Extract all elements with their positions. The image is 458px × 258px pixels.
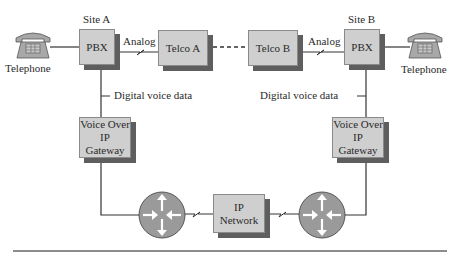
telco-b-label: Telco B — [248, 30, 298, 66]
ip-network: IP Network — [213, 194, 270, 238]
ip-network-line1: IP — [234, 201, 244, 214]
telephone-b-label: Telephone — [401, 63, 447, 75]
telephone-b-icon — [408, 33, 442, 58]
pbx-b: PBX — [344, 29, 385, 70]
line-gateway-b-router-b — [344, 163, 366, 215]
pbx-a: PBX — [79, 29, 120, 70]
analog-link-a — [120, 50, 158, 55]
link-ip-router-b — [270, 212, 299, 217]
telephone-a-label: Telephone — [5, 62, 51, 74]
analog-b-label: Analog — [308, 35, 340, 47]
site-b-label: Site B — [348, 13, 375, 25]
gateway-a-line1: Voice Over — [80, 118, 130, 131]
site-a-label: Site A — [83, 13, 110, 25]
analog-a-label: Analog — [123, 35, 155, 47]
digital-voice-a-label: Digital voice data — [114, 89, 192, 101]
telephone-a-icon — [16, 33, 50, 58]
telco-b: Telco B — [248, 30, 303, 71]
link-router-a-ip — [185, 212, 213, 217]
gateway-a-line2: IP Gateway — [80, 131, 130, 157]
router-a-icon — [139, 192, 185, 238]
ip-network-line2: Network — [220, 214, 259, 227]
router-b-icon — [299, 192, 345, 238]
pbx-a-label: PBX — [79, 29, 115, 65]
telco-a-label: Telco A — [158, 30, 208, 66]
telco-a: Telco A — [158, 30, 213, 71]
line-gateway-a-router-a — [101, 163, 140, 215]
analog-link-b — [303, 50, 345, 55]
voip-gateway-b: Voice Over IP Gateway — [332, 117, 389, 163]
digital-voice-b-label: Digital voice data — [260, 89, 338, 101]
gateway-b-line2: IP Gateway — [333, 131, 383, 157]
voip-gateway-a: Voice Over IP Gateway — [79, 117, 136, 163]
gateway-b-line1: Voice Over — [333, 118, 383, 131]
pbx-b-label: PBX — [344, 29, 380, 65]
